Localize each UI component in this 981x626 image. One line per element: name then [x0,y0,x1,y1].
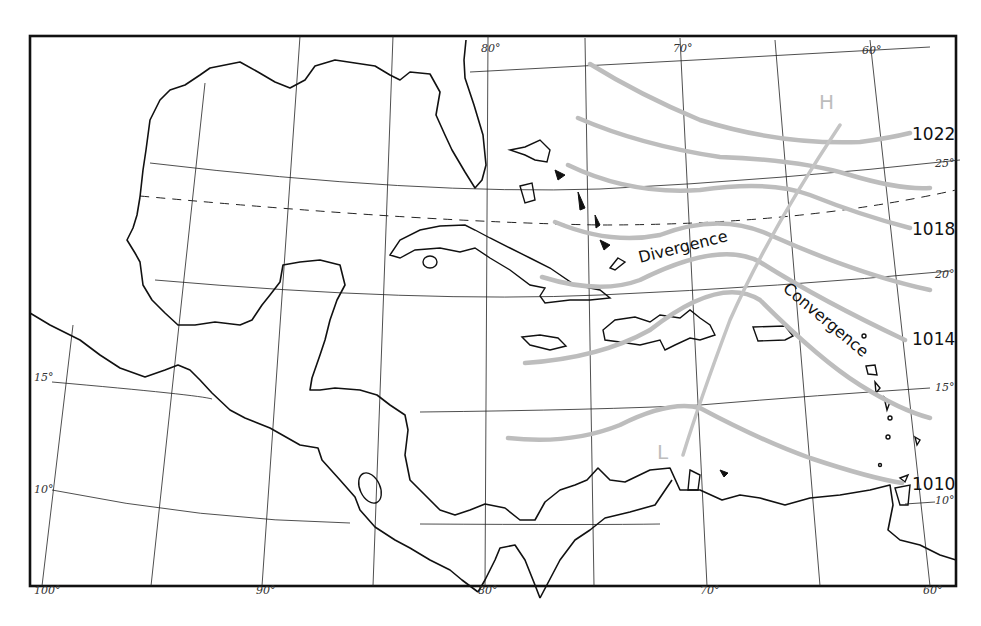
isobar-label-1010: 1010 [912,474,955,494]
south-america-coast [478,480,672,598]
high-pressure-label: H [819,90,834,114]
isobar-1018 [568,165,910,228]
isobars [508,64,930,483]
isobar-upper-2 [578,118,930,188]
lon-bottom-100: 100° [34,584,61,597]
lat-left-10: 10° [34,483,54,496]
low-pressure-label: L [657,440,669,464]
pacific-coast [30,313,478,592]
lat-right-15: 15° [935,381,955,394]
isobar-label-1022: 1022 [912,124,955,144]
mexico-gulf-coast [127,197,956,560]
jamaica [522,335,566,350]
lon-top-70: 70° [673,42,693,55]
tropic-of-cancer [140,190,956,225]
caribbean-pressure-map: 80° 70° 60° 100° 90° 80° 70° 60° 15° 10°… [0,0,981,626]
isobar-label-1018: 1018 [912,219,955,239]
isobar-1010 [508,406,902,483]
lat-right-10: 10° [935,494,955,507]
lon-top-60: 60° [862,44,882,57]
parallels [52,47,960,525]
lon-top-80: 80° [481,42,501,55]
isobar-1022 [590,64,910,142]
lon-bottom-60: 60° [923,584,943,597]
isobar-label-1014: 1014 [912,329,955,349]
us-gulf-coast [140,40,486,197]
lon-bottom-90: 90° [256,584,276,597]
lat-left-15: 15° [34,371,54,384]
lon-bottom-80: 80° [478,584,498,597]
isobar-1014 [525,292,930,418]
lat-right-25: 25° [934,157,955,170]
lake-nicaragua [354,469,386,506]
lon-bottom-70: 70° [700,584,720,597]
lat-right-20: 20° [934,268,955,281]
isle-of-youth [423,256,437,268]
